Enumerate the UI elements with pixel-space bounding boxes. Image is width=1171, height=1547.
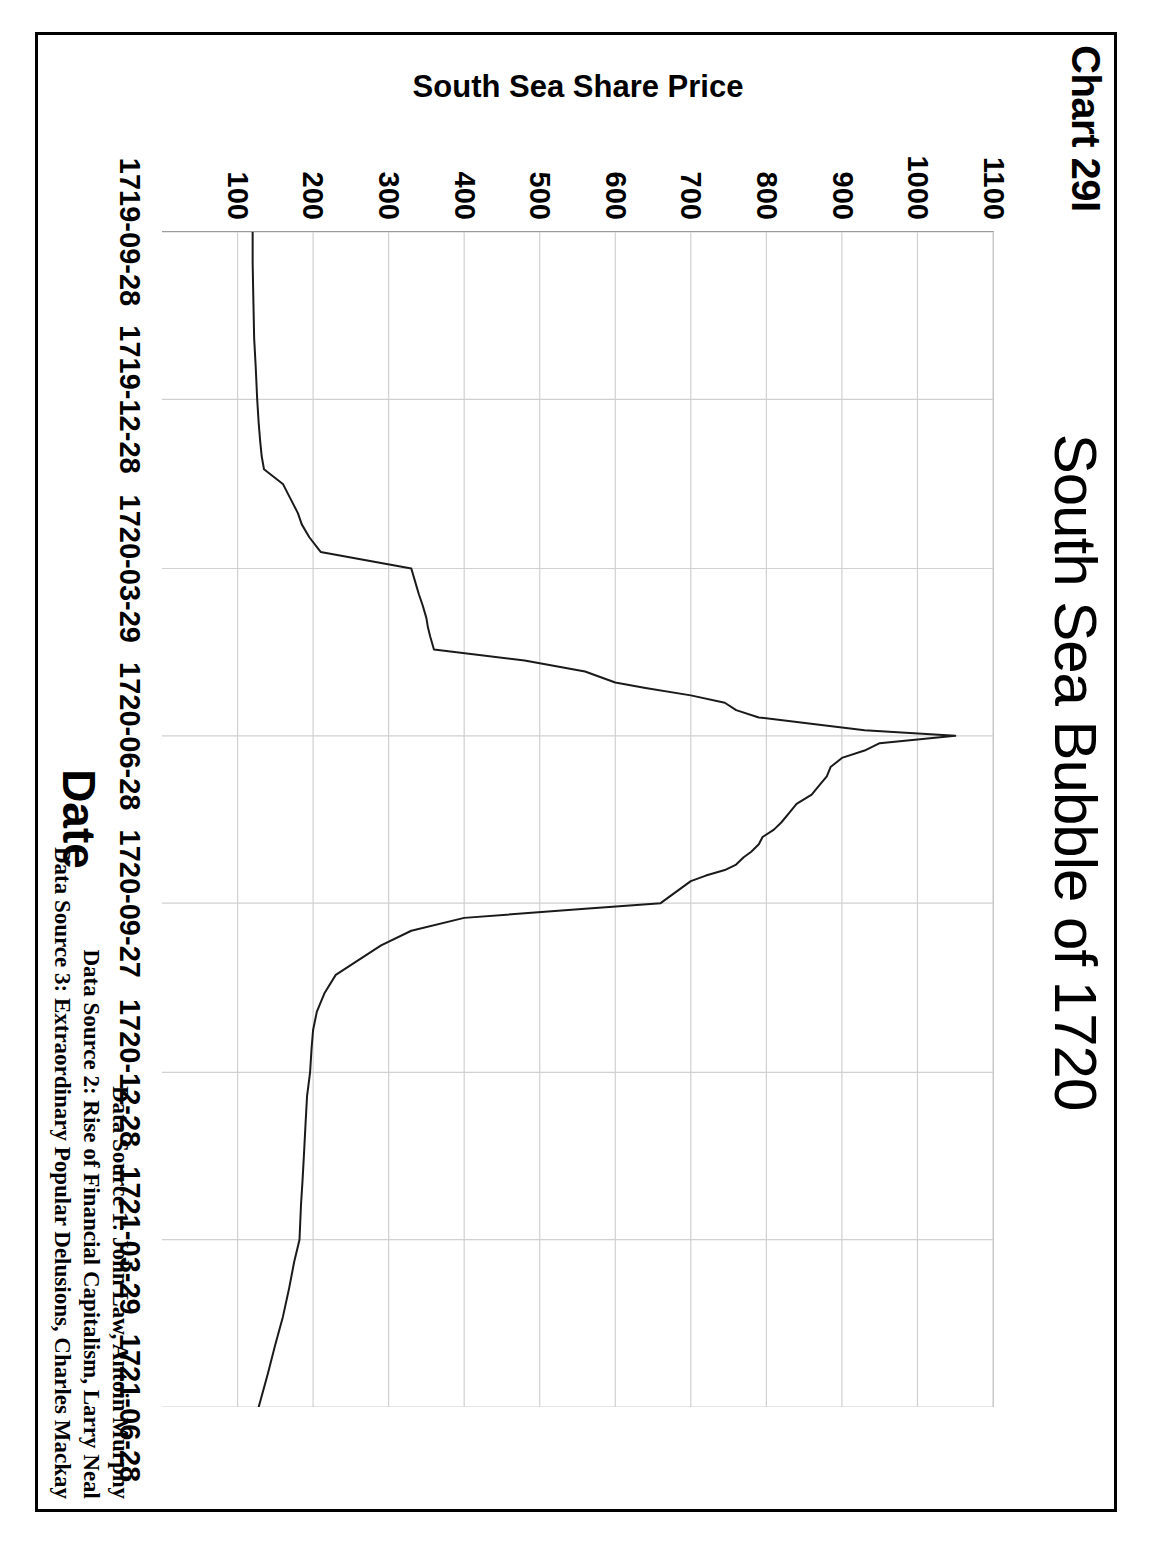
y-axis-tick-label: 600	[598, 172, 631, 220]
plot-area: 11001000900800700600500400300200100 1719…	[162, 231, 994, 1407]
plot-svg	[162, 232, 993, 1407]
y-axis-tick-label: 400	[447, 172, 480, 220]
x-axis-tick-label: 1719-12-28	[113, 325, 146, 473]
y-axis-tick-label: 500	[523, 172, 556, 220]
y-axis-tick-label: 900	[825, 172, 858, 220]
y-axis-title: South Sea Share Price	[162, 67, 994, 107]
x-axis-tick-label: 1720-06-28	[113, 662, 146, 810]
x-axis-tick-label: 1719-09-28	[113, 158, 146, 306]
x-axis-tick-label: 1720-03-29	[113, 495, 146, 643]
y-axis-tick-label: 1100	[977, 157, 1010, 220]
data-source-line: Data Source 1: John Law, Antoin Murphy	[105, 847, 134, 1499]
page-title: South Sea Bubble of 1720	[1041, 35, 1110, 1509]
data-line	[253, 232, 956, 1407]
page-border: Chart 29I South Sea Bubble of 1720 South…	[35, 32, 1117, 1512]
gridlines	[162, 232, 993, 1407]
y-axis-tick-label: 300	[371, 172, 404, 220]
data-source-line: Data Source 3: Extraordinary Popular Del…	[47, 847, 76, 1499]
data-series-group	[253, 232, 956, 1407]
y-axis-tick-label: 100	[220, 172, 253, 220]
y-axis-tick-label: 1000	[901, 155, 934, 220]
y-axis-tick-label: 700	[674, 172, 707, 220]
y-axis-tick-label: 200	[296, 172, 329, 220]
data-sources-note: Data Source 1: John Law, Antoin Murphy D…	[47, 847, 134, 1499]
data-source-line: Data Source 2: Rise of Financial Capital…	[76, 847, 105, 1499]
y-axis-tick-label: 800	[750, 172, 783, 220]
rotated-chart-canvas: Chart 29I South Sea Bubble of 1720 South…	[38, 35, 1114, 1509]
y-axis-title-text: South Sea Share Price	[413, 69, 744, 105]
